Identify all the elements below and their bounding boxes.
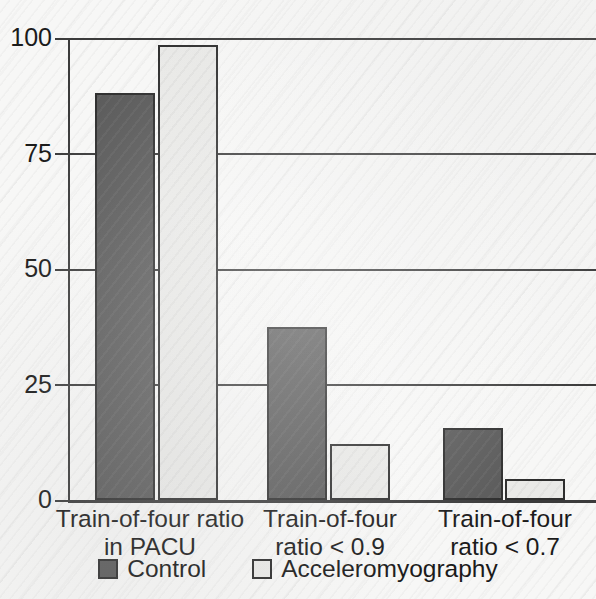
legend: Control Acceleromyography (0, 556, 596, 582)
bar-acceleromyography-train-of-four-ratio-lt-0-7[interactable] (505, 479, 565, 500)
y-tick-mark-50 (55, 269, 68, 271)
x-category-label-1: Train-of-four ratio in PACU (55, 505, 245, 561)
y-tick-label-100-wrap: 100 (0, 25, 52, 50)
legend-swatch-control-icon (98, 559, 118, 579)
y-tick-label-50-wrap: 50 (0, 256, 52, 281)
x-category-label-2-line-1: Train-of-four (240, 505, 420, 533)
y-tick-label-50: 50 (0, 256, 52, 281)
y-tick-label-25-wrap: 25 (0, 372, 52, 397)
y-tick-label-0: 0 (0, 487, 52, 512)
y-tick-label-0-wrap: 0 (0, 487, 52, 512)
y-tick-mark-25 (55, 384, 68, 386)
legend-item-control[interactable]: Control (98, 556, 206, 582)
y-tick-label-25: 25 (0, 372, 52, 397)
x-category-label-3-line-1: Train-of-four (415, 505, 595, 533)
y-tick-label-75: 75 (0, 141, 52, 166)
gridline-baseline-0 (68, 500, 596, 503)
bar-acceleromyography-train-of-four-ratio-lt-0-9[interactable] (330, 444, 390, 500)
legend-swatch-acceleromyography-icon (252, 559, 272, 579)
y-tick-label-100: 100 (0, 25, 52, 50)
y-tick-mark-0 (55, 500, 68, 502)
x-category-label-3: Train-of-four ratio < 0.7 (415, 505, 595, 561)
x-category-label-2: Train-of-four ratio < 0.9 (240, 505, 420, 561)
bar-control-train-of-four-ratio-lt-0-9[interactable] (267, 327, 327, 500)
chart-page: 100 75 50 25 0 Train-of-four ratio (0, 0, 596, 599)
plot-area (68, 38, 596, 500)
bar-control-train-of-four-ratio-in-pacu[interactable] (95, 93, 155, 500)
y-tick-mark-75 (55, 153, 68, 155)
legend-label-control: Control (127, 556, 206, 582)
legend-item-acceleromyography[interactable]: Acceleromyography (252, 556, 498, 582)
gridline-100 (68, 38, 596, 40)
x-category-label-1-line-1: Train-of-four ratio (55, 505, 245, 533)
bar-acceleromyography-train-of-four-ratio-in-pacu[interactable] (158, 45, 218, 500)
bar-control-train-of-four-ratio-lt-0-7[interactable] (443, 428, 503, 500)
legend-label-acceleromyography: Acceleromyography (281, 556, 498, 582)
y-tick-mark-100 (55, 38, 68, 40)
y-tick-label-75-wrap: 75 (0, 141, 52, 166)
